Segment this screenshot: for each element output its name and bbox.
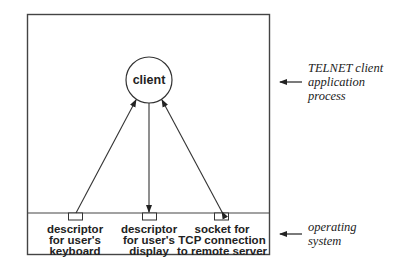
client-label: client [133, 73, 166, 87]
keyboard-to-client-arrow [76, 100, 136, 213]
label-line: system [308, 234, 357, 248]
display-descriptor-label: descriptor for user's display [121, 224, 177, 257]
label-line: TELNET client [308, 61, 383, 75]
label-line: operating [308, 220, 357, 234]
application-process-label: TELNET client application process [308, 61, 383, 103]
label-line: display [121, 246, 177, 257]
operating-system-label: operating system [308, 220, 357, 248]
socket-descriptor-label: socket for TCP connection to remote serv… [177, 224, 267, 257]
socket-descriptor-box [215, 213, 229, 220]
label-line: keyboard [47, 246, 103, 257]
keyboard-descriptor-box [69, 213, 83, 220]
label-line: application [308, 75, 383, 89]
display-descriptor-box [143, 213, 157, 220]
client-socket-bidirectional-arrow [162, 100, 222, 212]
label-line: to remote server [177, 246, 267, 257]
keyboard-descriptor-label: descriptor for user's keyboard [47, 224, 103, 257]
label-line: process [308, 89, 383, 103]
